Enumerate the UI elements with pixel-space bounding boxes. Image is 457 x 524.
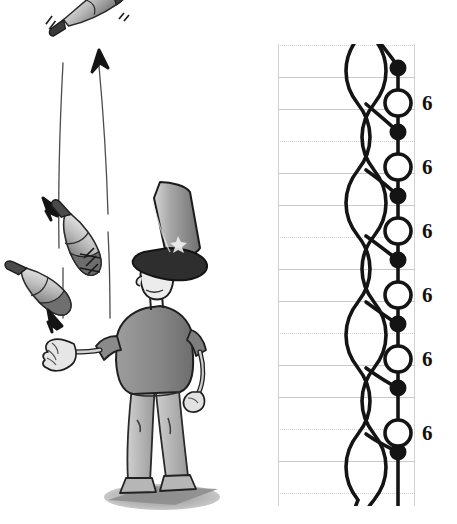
throw-label-6: 6 <box>422 423 433 444</box>
open-circle <box>385 154 411 180</box>
spin-marks-top <box>119 13 129 21</box>
throw-label-6: 6 <box>422 93 433 114</box>
juggling-club-middle <box>44 193 108 281</box>
throw-label-6: 6 <box>422 221 433 242</box>
figure-canvas: 6 6 6 6 6 6 <box>0 0 457 524</box>
filled-dot <box>390 188 407 205</box>
juggler-top-hat <box>133 182 207 280</box>
open-circle <box>385 282 411 308</box>
ladder-diagram <box>278 44 415 506</box>
filled-dot <box>390 252 407 269</box>
open-circle <box>385 346 411 372</box>
open-circle <box>385 420 411 446</box>
trajectory-lines <box>59 63 110 318</box>
juggler-shirt <box>96 306 206 396</box>
braid-strands <box>278 44 415 506</box>
juggler-right-hand <box>183 392 204 412</box>
filled-dot <box>390 124 407 141</box>
juggling-club-lower <box>0 250 78 321</box>
throw-label-6: 6 <box>422 157 433 178</box>
open-circle <box>385 218 411 244</box>
throw-label-6: 6 <box>422 285 433 306</box>
open-circle <box>385 90 411 116</box>
throw-label-6: 6 <box>422 349 433 370</box>
juggler-right-arm <box>198 352 203 394</box>
filled-dot <box>390 380 407 397</box>
arrow-up-icon <box>92 50 108 72</box>
juggler-left-arm <box>74 350 100 352</box>
filled-dot <box>390 316 407 333</box>
juggler-left-hand <box>43 339 76 371</box>
filled-dot <box>390 60 407 77</box>
